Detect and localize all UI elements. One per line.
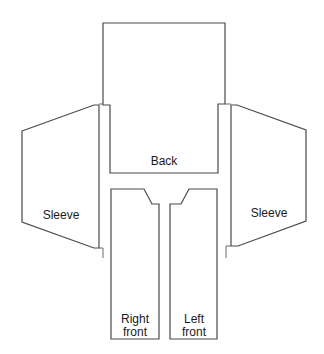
left-front-label-line1: Left <box>184 312 205 326</box>
left-sleeve-piece: Sleeve <box>22 105 99 248</box>
back-outline <box>103 23 225 173</box>
left-sleeve-outline <box>22 105 99 248</box>
left-front-piece: Left front <box>170 189 217 339</box>
pattern-diagram: Back Sleeve Sleeve Right front Left fron… <box>0 0 324 354</box>
back-label: Back <box>151 154 179 168</box>
right-front-label-line2: front <box>123 325 148 339</box>
left-sleeve-label: Sleeve <box>43 208 80 222</box>
right-sleeve-piece: Sleeve <box>231 105 306 246</box>
left-front-label-line2: front <box>182 325 207 339</box>
right-front-piece: Right front <box>111 189 159 339</box>
right-sleeve-outline <box>231 105 306 246</box>
back-piece: Back <box>103 23 225 173</box>
right-seam-guide <box>225 104 231 258</box>
right-sleeve-label: Sleeve <box>251 206 288 220</box>
right-front-label-line1: Right <box>121 312 150 326</box>
